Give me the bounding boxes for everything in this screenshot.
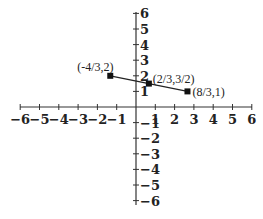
y-tick-label: −4 bbox=[140, 162, 160, 177]
y-tick-label: 1 bbox=[140, 84, 149, 99]
x-tick-label: 5 bbox=[228, 112, 237, 127]
x-tick-label: −2 bbox=[87, 112, 107, 127]
data-point-marker bbox=[146, 81, 152, 87]
x-tick-label: −6 bbox=[10, 112, 30, 127]
point-label: (8/3,1) bbox=[192, 85, 224, 99]
point-label: (2/3,3/2) bbox=[153, 72, 195, 86]
y-tick-label: −6 bbox=[140, 194, 160, 209]
x-tick-label: −1 bbox=[107, 112, 127, 127]
y-tick-label: 3 bbox=[140, 53, 149, 68]
y-tick-label: 5 bbox=[140, 22, 149, 37]
point-labels: (-4/3,2)(2/3,3/2)(8/3,1) bbox=[77, 60, 225, 100]
data-point-marker bbox=[184, 88, 190, 94]
y-tick-label: −5 bbox=[140, 178, 160, 193]
y-tick-label: 6 bbox=[140, 6, 149, 21]
x-tick-label: −5 bbox=[30, 112, 50, 127]
x-tick-label: −4 bbox=[49, 112, 69, 127]
x-tick-label: 2 bbox=[170, 112, 179, 127]
point-label: (-4/3,2) bbox=[77, 60, 113, 74]
x-tick-label: −3 bbox=[68, 112, 88, 127]
y-tick-label: −2 bbox=[140, 131, 160, 146]
y-tick-label: 4 bbox=[140, 38, 149, 53]
coordinate-plane: −6−5−4−3−2−1123456 654321−1−2−3−4−5−6 (-… bbox=[0, 0, 263, 219]
x-tick-label: 6 bbox=[247, 112, 256, 127]
x-tick-label: 4 bbox=[209, 112, 218, 127]
y-tick-label: −3 bbox=[140, 147, 160, 162]
x-tick-label: 3 bbox=[189, 112, 198, 127]
x-tick-labels: −6−5−4−3−2−1123456 bbox=[10, 112, 256, 127]
y-tick-label: −1 bbox=[140, 116, 160, 131]
